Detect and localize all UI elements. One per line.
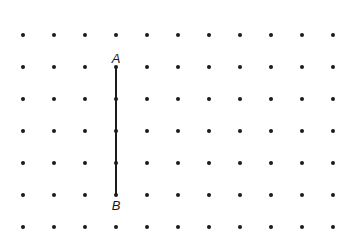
grid-dot xyxy=(83,161,87,165)
grid-dot xyxy=(176,97,180,101)
point-label-a: A xyxy=(111,51,121,66)
grid-dot xyxy=(331,193,335,197)
grid-dot xyxy=(83,65,87,69)
grid-dot xyxy=(83,225,87,229)
grid-dot xyxy=(52,65,56,69)
grid-dot xyxy=(269,97,273,101)
grid-dot xyxy=(176,225,180,229)
grid-dot xyxy=(21,65,25,69)
grid-dot xyxy=(269,33,273,37)
grid-dot xyxy=(145,33,149,37)
grid-dot xyxy=(331,161,335,165)
grid-dot xyxy=(145,97,149,101)
grid-dot xyxy=(331,65,335,69)
grid-dot xyxy=(21,33,25,37)
grid-dot xyxy=(207,33,211,37)
grid-dot xyxy=(300,65,304,69)
grid-dot xyxy=(145,65,149,69)
grid-dot xyxy=(52,33,56,37)
grid-dot xyxy=(300,129,304,133)
grid-dot xyxy=(331,97,335,101)
grid-dot xyxy=(331,225,335,229)
grid-dot xyxy=(300,33,304,37)
grid-dot xyxy=(52,161,56,165)
dot-grid-diagram: A B xyxy=(0,0,354,249)
grid-dot xyxy=(21,129,25,133)
grid-dot xyxy=(21,97,25,101)
grid-dot xyxy=(176,65,180,69)
grid-dot xyxy=(207,65,211,69)
grid-dot xyxy=(145,225,149,229)
grid-dot xyxy=(269,65,273,69)
grid-dot xyxy=(300,161,304,165)
grid-dot xyxy=(52,225,56,229)
grid-dot xyxy=(269,193,273,197)
grid-dot xyxy=(300,193,304,197)
grid-dot xyxy=(238,97,242,101)
grid-dot xyxy=(269,161,273,165)
grid-dot xyxy=(300,225,304,229)
grid-dot xyxy=(145,129,149,133)
grid-dot xyxy=(176,129,180,133)
grid-dot xyxy=(238,225,242,229)
point-label-b: B xyxy=(112,198,121,213)
grid-dot xyxy=(331,33,335,37)
grid-dot xyxy=(238,65,242,69)
grid-dot xyxy=(52,129,56,133)
grid-dot xyxy=(207,225,211,229)
grid-dot xyxy=(176,161,180,165)
grid-dot xyxy=(83,33,87,37)
grid-dot xyxy=(114,225,118,229)
grid-dot xyxy=(176,33,180,37)
grid-dot xyxy=(238,193,242,197)
grid-dot xyxy=(238,129,242,133)
grid-dot xyxy=(176,193,180,197)
grid-dot xyxy=(238,33,242,37)
grid-dots xyxy=(21,33,335,229)
grid-dot xyxy=(145,193,149,197)
grid-dot xyxy=(207,97,211,101)
grid-dot xyxy=(331,129,335,133)
grid-dot xyxy=(269,225,273,229)
grid-dot xyxy=(114,33,118,37)
grid-dot xyxy=(21,161,25,165)
grid-dot xyxy=(300,97,304,101)
grid-dot xyxy=(52,193,56,197)
grid-dot xyxy=(83,97,87,101)
grid-dot xyxy=(21,225,25,229)
grid-dot xyxy=(21,193,25,197)
grid-dot xyxy=(83,193,87,197)
grid-dot xyxy=(83,129,87,133)
grid-dot xyxy=(207,193,211,197)
grid-dot xyxy=(207,161,211,165)
grid-dot xyxy=(145,161,149,165)
grid-dot xyxy=(207,129,211,133)
grid-dot xyxy=(269,129,273,133)
grid-dot xyxy=(52,97,56,101)
grid-dot xyxy=(238,161,242,165)
